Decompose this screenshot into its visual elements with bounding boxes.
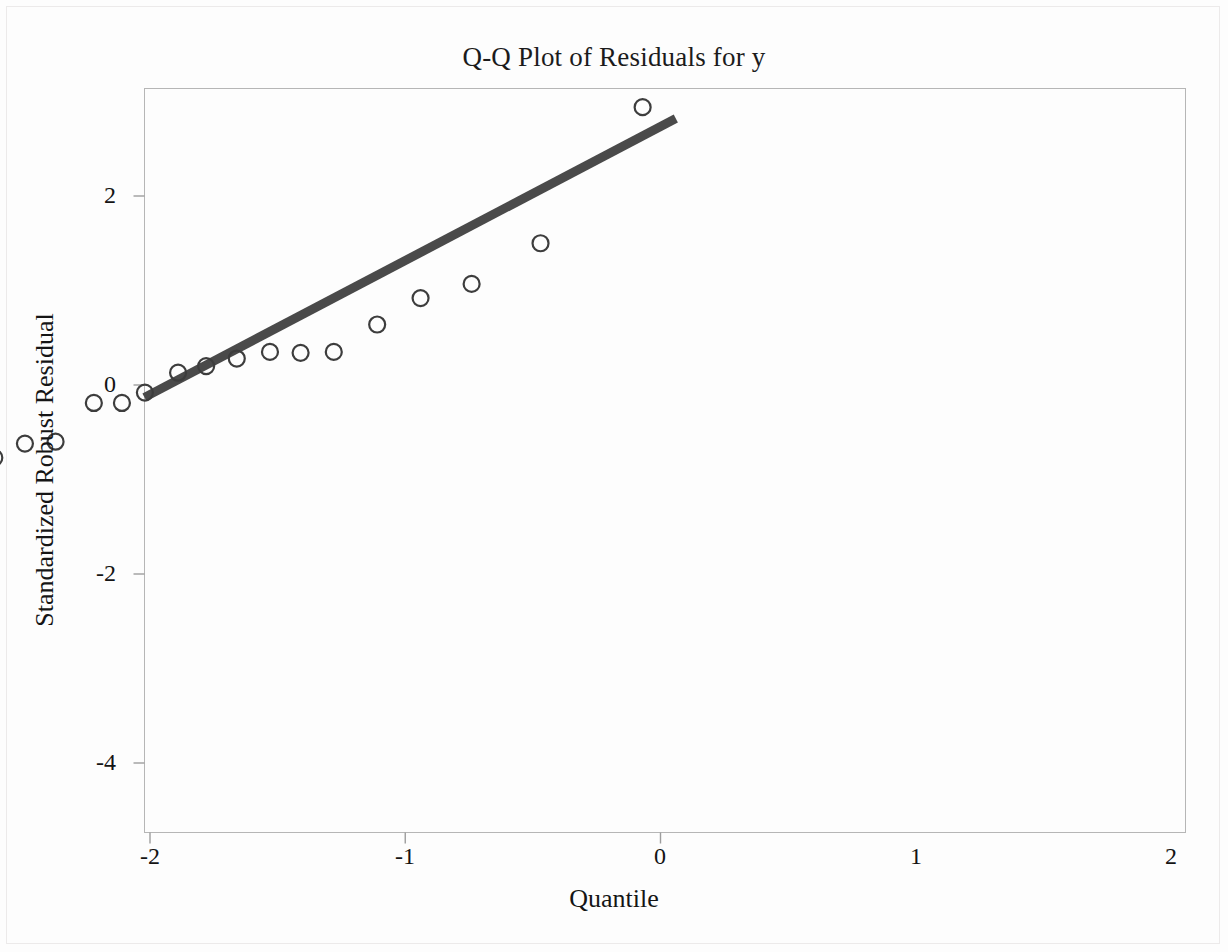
tick-marks xyxy=(0,196,661,844)
y-tick-label: 2 xyxy=(56,182,116,209)
y-axis-label: Standardized Robust Residual xyxy=(30,210,60,730)
x-tick-label: -2 xyxy=(120,843,180,870)
qq-plot-figure: Q-Q Plot of Residuals for y 2 0 -2 -4 -2… xyxy=(0,0,1228,952)
x-tick-label: 0 xyxy=(630,843,690,870)
data-point-marker xyxy=(0,450,2,466)
y-tick-label: -2 xyxy=(56,560,116,587)
x-axis-label: Quantile xyxy=(0,884,1228,914)
data-point-marker xyxy=(464,276,480,292)
x-tick-label: 1 xyxy=(886,843,946,870)
y-tick-label: 0 xyxy=(56,371,116,398)
reference-line-segment xyxy=(145,119,676,398)
data-point-marker xyxy=(635,99,651,115)
data-point-marker xyxy=(533,235,549,251)
data-point-marker xyxy=(413,290,429,306)
reference-line xyxy=(145,119,676,398)
x-tick-label: 2 xyxy=(1141,843,1201,870)
data-point-marker xyxy=(114,395,130,411)
plot-frame xyxy=(145,89,1186,833)
data-point-marker xyxy=(369,317,385,333)
data-point-marker xyxy=(326,344,342,360)
plot-canvas xyxy=(0,0,1228,952)
y-tick-label: -4 xyxy=(56,749,116,776)
data-point-marker xyxy=(293,345,309,361)
x-tick-label: -1 xyxy=(375,843,435,870)
data-point-marker xyxy=(262,344,278,360)
